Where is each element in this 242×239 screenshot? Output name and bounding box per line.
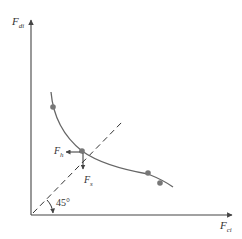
angle-arc: [47, 200, 53, 213]
curve-point: [157, 180, 163, 186]
y-axis-label: Fdi: [11, 15, 24, 30]
indifference-diagram: Fdi Fci Fh Fs 45°: [0, 0, 242, 239]
force-h-label: Fh: [53, 145, 64, 159]
x-axis-label: Fci: [219, 219, 232, 234]
curve-point-center: [79, 148, 85, 154]
angle-label: 45°: [56, 197, 70, 208]
curve-point: [50, 104, 56, 110]
dashed-45-line: [33, 121, 123, 213]
curve-point: [145, 170, 151, 176]
indifference-curve: [51, 92, 173, 187]
force-s-label: Fs: [83, 174, 93, 188]
